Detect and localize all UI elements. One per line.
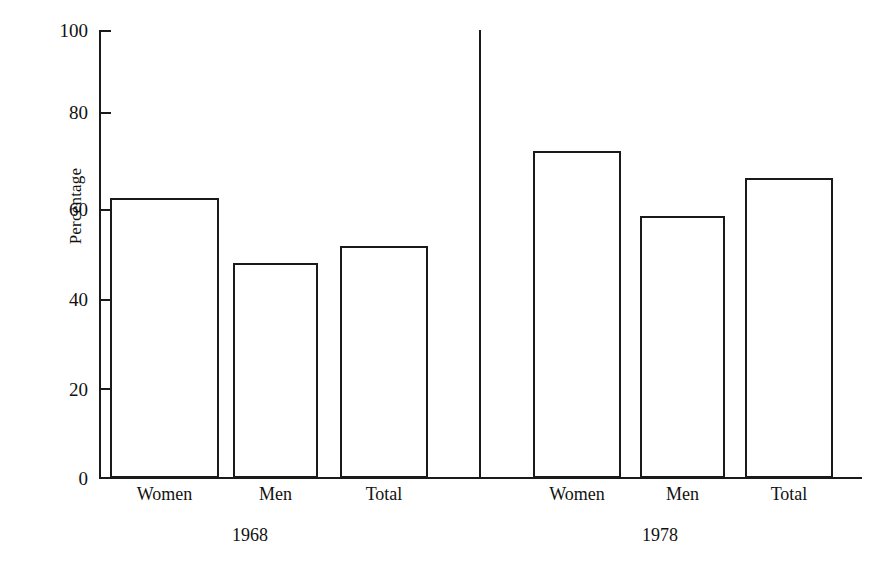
y-axis-line xyxy=(99,30,101,479)
bar-1978-women[interactable] xyxy=(533,151,621,478)
bar-1978-total[interactable] xyxy=(745,178,833,478)
y-tick-80: 80 xyxy=(38,103,88,122)
y-tick-label: 80 xyxy=(44,103,88,122)
x-label-1968-women: Women xyxy=(110,484,219,504)
y-tick-0: 0 xyxy=(38,469,88,488)
x-label-1978-women: Women xyxy=(533,484,621,504)
bar-1968-women[interactable] xyxy=(110,198,219,478)
x-label-1978-men: Men xyxy=(640,484,725,504)
x-label-1978-total: Total xyxy=(745,484,833,504)
y-tick-60: 60 xyxy=(38,200,88,219)
y-tick-label: 0 xyxy=(44,469,88,488)
y-tick-label: 60 xyxy=(44,200,88,219)
bar-1978-men[interactable] xyxy=(640,216,725,478)
y-tick-40: 40 xyxy=(38,290,88,309)
group-label-1968: 1968 xyxy=(180,525,320,545)
y-tick-label: 40 xyxy=(44,290,88,309)
bar-chart: Percentage 100 80 60 40 20 0 Women Men T… xyxy=(0,0,877,569)
y-tick-100: 100 xyxy=(38,21,88,40)
y-tick-label: 20 xyxy=(44,380,88,399)
y-tick-label: 100 xyxy=(44,21,88,40)
group-divider-line xyxy=(479,30,481,479)
bar-1968-total[interactable] xyxy=(340,246,428,478)
y-tick-20: 20 xyxy=(38,380,88,399)
x-label-1968-total: Total xyxy=(340,484,428,504)
group-label-1978: 1978 xyxy=(590,525,730,545)
x-label-1968-men: Men xyxy=(233,484,318,504)
bar-1968-men[interactable] xyxy=(233,263,318,478)
